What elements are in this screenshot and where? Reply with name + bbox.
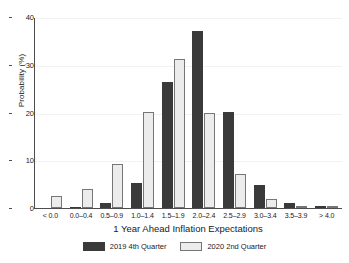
bar (235, 174, 246, 208)
bar (254, 185, 265, 208)
bar (131, 183, 142, 208)
chart-legend: 2019 4th Quarter2020 2nd Quarter (0, 242, 349, 251)
legend-label: 2020 2nd Quarter (207, 242, 266, 251)
y-axis-title: Probability (%) (17, 16, 26, 146)
bar (70, 207, 81, 208)
bar-group (66, 18, 97, 208)
bar (100, 203, 111, 208)
bar-group (219, 18, 250, 208)
inflation-expectations-chart: Probability (%) 010203040 < 0.00.0–0.40.… (0, 0, 349, 263)
bar (143, 112, 154, 208)
bar-group (311, 18, 342, 208)
y-tick-mark (9, 113, 12, 114)
y-tick-label: 40 (12, 13, 34, 23)
bar-group (281, 18, 312, 208)
x-tick-label: 1.0–1.4 (127, 212, 158, 219)
y-tick-label: 0 (12, 204, 34, 214)
bar (51, 196, 62, 208)
bar (82, 189, 93, 208)
y-tick-mark (9, 17, 12, 18)
y-tick-label: 20 (12, 109, 34, 119)
bar-group (35, 18, 66, 208)
bar (315, 206, 326, 208)
plot-area: 010203040 (34, 18, 342, 209)
bar-group (127, 18, 158, 208)
x-tick-label: > 4.0 (311, 212, 342, 219)
legend-swatch (83, 242, 105, 251)
x-axis-title: 1 Year Ahead Inflation Expectations (34, 223, 342, 234)
bar (266, 199, 277, 208)
y-tick-mark (9, 208, 12, 209)
bar-groups (35, 18, 342, 208)
bar (296, 206, 307, 208)
bar-group (158, 18, 189, 208)
bar (162, 82, 173, 208)
x-tick-label: 1.5–1.9 (158, 212, 189, 219)
bar-group (250, 18, 281, 208)
x-tick-label: 3.5–3.9 (281, 212, 312, 219)
bar (174, 59, 185, 208)
legend-entry: 2019 4th Quarter (83, 242, 167, 251)
bar (327, 206, 338, 208)
bar (112, 164, 123, 208)
x-tick-label: 0.0–0.4 (66, 212, 97, 219)
bar-group (96, 18, 127, 208)
bar (192, 31, 203, 208)
x-tick-label: < 0.0 (35, 212, 66, 219)
y-tick-label: 30 (12, 61, 34, 71)
bar (223, 112, 234, 208)
x-tick-label: 2.0–2.4 (189, 212, 220, 219)
bar-group (189, 18, 220, 208)
x-axis-line (34, 208, 342, 209)
x-tick-label: 2.5–2.9 (219, 212, 250, 219)
y-tick-label: 10 (12, 156, 34, 166)
bar (204, 113, 215, 208)
legend-label: 2019 4th Quarter (110, 242, 167, 251)
y-tick-mark (9, 65, 12, 66)
bar (284, 203, 295, 208)
x-tick-label: 3.0–3.4 (250, 212, 281, 219)
x-tick-label: 0.5–0.9 (96, 212, 127, 219)
x-axis-ticks: < 0.00.0–0.40.5–0.91.0–1.41.5–1.92.0–2.4… (35, 212, 342, 219)
legend-entry: 2020 2nd Quarter (180, 242, 266, 251)
y-tick-mark (9, 160, 12, 161)
legend-swatch (180, 242, 202, 251)
